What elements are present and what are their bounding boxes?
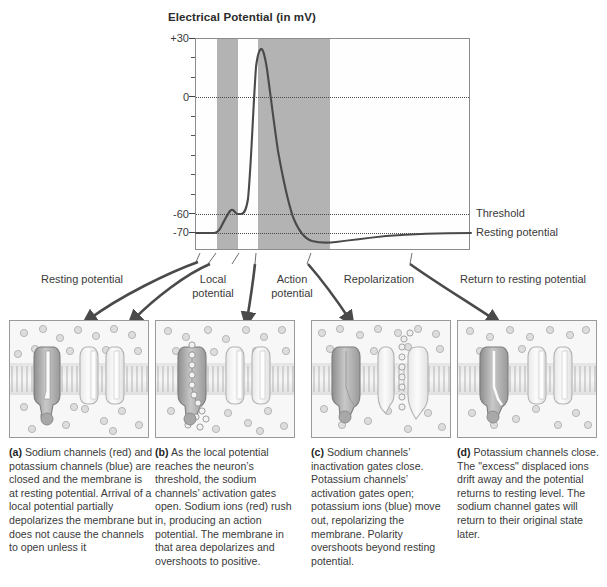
caption-a-text: Sodium channels (red) and potassium chan… xyxy=(9,446,152,553)
phase-label-action-potential: Action potential xyxy=(262,273,322,300)
membrane-potential-curve xyxy=(196,39,471,251)
phase-label-resting-potential: Resting potential xyxy=(22,273,142,287)
potential-chart: Electrical Potential (in mV) +30 0 -60 -… xyxy=(0,0,607,255)
membrane-panel-d xyxy=(457,320,597,438)
caption-c-letter: (c) xyxy=(311,446,324,458)
y-tick-label-plus30: +30 xyxy=(155,32,189,44)
membrane-illustration-d xyxy=(458,321,596,437)
caption-c: (c) Sodium channels’ inactivation gates … xyxy=(311,446,455,568)
membrane-illustration-b xyxy=(156,321,294,437)
caption-b-text: As the local potential reaches the neuro… xyxy=(155,446,292,567)
membrane-panel-row xyxy=(0,320,607,440)
phase-label-repolarization: Repolarization xyxy=(335,273,423,287)
phase-callout-layer: Resting potential Local potential Action… xyxy=(0,250,607,322)
phase-label-local-potential: Local potential xyxy=(185,273,241,300)
membrane-illustration-a xyxy=(10,321,148,437)
phase-label-return-to-resting-potential: Return to resting potential xyxy=(443,273,603,287)
resting-potential-annotation: Resting potential xyxy=(476,226,558,238)
y-tick-label-minus60: -60 xyxy=(155,208,189,220)
membrane-illustration-c xyxy=(312,321,450,437)
caption-d-text: Potassium channels close. The "excess" d… xyxy=(457,446,599,540)
caption-b: (b) As the local potential reaches the n… xyxy=(155,446,299,568)
caption-b-letter: (b) xyxy=(155,446,169,458)
caption-a: (a) Sodium channels (red) and potassium … xyxy=(9,446,153,555)
caption-a-letter: (a) xyxy=(9,446,22,458)
y-tick-label-0: 0 xyxy=(155,91,189,103)
membrane-panel-b xyxy=(155,320,295,438)
caption-row: (a) Sodium channels (red) and potassium … xyxy=(0,446,607,587)
action-potential-figure: Electrical Potential (in mV) +30 0 -60 -… xyxy=(0,0,607,587)
y-tick-label-minus70: -70 xyxy=(155,226,189,238)
caption-d: (d) Potassium channels close. The "exces… xyxy=(457,446,601,541)
threshold-annotation: Threshold xyxy=(476,207,525,219)
membrane-panel-c xyxy=(311,320,451,438)
caption-d-letter: (d) xyxy=(457,446,471,458)
plot-area xyxy=(195,38,470,250)
chart-title: Electrical Potential (in mV) xyxy=(168,11,488,23)
caption-c-text: Sodium channels’ inactivation gates clos… xyxy=(311,446,441,567)
membrane-panel-a xyxy=(9,320,149,438)
